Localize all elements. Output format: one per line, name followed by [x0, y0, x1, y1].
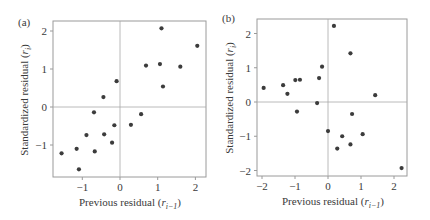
data-point [159, 26, 163, 30]
y-axis-ticks-b: −2−1012 [239, 28, 257, 177]
data-point [335, 146, 339, 150]
y-tick-label: 2 [42, 25, 48, 37]
data-point [281, 83, 285, 87]
data-point [315, 101, 319, 105]
data-point [101, 95, 105, 99]
y-tick-label: −1 [239, 130, 251, 142]
x-tick-label: −1 [76, 181, 88, 193]
x-axis-ticks-a: −1012 [76, 177, 198, 193]
data-point [195, 44, 199, 48]
figure: (a) −1012 −1012 Previous residual (ri−1)… [0, 0, 430, 220]
scatter-panel-b: (b) −2−1012 −2−1012 Previous residual (r… [222, 12, 407, 210]
x-tick-label: 1 [358, 180, 364, 192]
x-axis-ticks-b: −2−1012 [256, 176, 397, 192]
data-point [350, 112, 354, 116]
y-tick-label: 2 [246, 28, 252, 40]
x-axis-label-a: Previous residual (ri−1) [79, 196, 181, 211]
x-tick-label: 0 [117, 181, 123, 193]
x-tick-label: 1 [155, 181, 161, 193]
data-point [139, 112, 143, 116]
x-tick-label: −1 [289, 180, 301, 192]
data-point [110, 141, 114, 145]
data-point [340, 134, 344, 138]
data-point [320, 65, 324, 69]
data-point [84, 133, 88, 137]
scatter-panel-a: (a) −1012 −1012 Previous residual (ri−1)… [18, 16, 206, 211]
data-point [348, 51, 352, 55]
data-point [129, 123, 133, 127]
x-tick-label: 2 [391, 180, 397, 192]
plot-frame-a [53, 21, 206, 177]
data-point [262, 86, 266, 90]
y-tick-label: −2 [239, 165, 251, 177]
data-point [92, 110, 96, 114]
data-point [332, 24, 336, 28]
data-point [59, 151, 63, 155]
data-point [75, 147, 79, 151]
data-point [144, 63, 148, 67]
panel-label-a: (a) [18, 16, 31, 29]
data-point [326, 129, 330, 133]
data-point [373, 93, 377, 97]
plot-frame-b [257, 19, 407, 176]
data-point [178, 65, 182, 69]
data-point [115, 79, 119, 83]
data-point [295, 109, 299, 113]
data-point [361, 132, 365, 136]
data-point [285, 92, 289, 96]
y-tick-label: −1 [35, 139, 47, 151]
y-axis-label-a: Standardized residual (ri) [18, 44, 33, 156]
data-point [399, 166, 403, 170]
x-tick-label: 2 [193, 181, 199, 193]
y-axis-label-b: Standardized residual (ri) [223, 42, 238, 154]
y-tick-label: 1 [42, 63, 48, 75]
data-point [348, 142, 352, 146]
data-points-b [262, 24, 404, 170]
data-points-a [59, 26, 199, 171]
data-point [93, 149, 97, 153]
y-tick-label: 0 [42, 101, 48, 113]
panel-label-b: (b) [222, 12, 235, 25]
data-point [293, 78, 297, 82]
x-tick-label: −2 [256, 180, 268, 192]
data-point [317, 76, 321, 80]
data-point [77, 167, 81, 171]
data-point [112, 123, 116, 127]
data-point [158, 62, 162, 66]
y-tick-label: 1 [246, 62, 252, 74]
data-point [161, 84, 165, 88]
data-point [298, 78, 302, 82]
x-axis-label-b: Previous residual (ri−1) [282, 195, 384, 210]
x-tick-label: 0 [325, 180, 331, 192]
y-tick-label: 0 [246, 96, 252, 108]
y-axis-ticks-a: −1012 [35, 25, 53, 151]
data-point [102, 132, 106, 136]
